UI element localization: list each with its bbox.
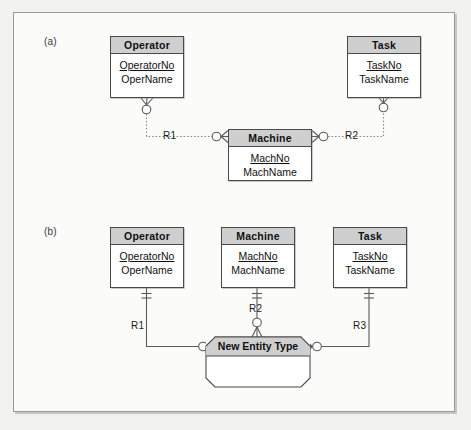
entity-machine-b-attributes: MachNo MachName bbox=[222, 245, 294, 277]
attribute: MachName bbox=[222, 263, 294, 277]
relationship-label-r3-b: R3 bbox=[353, 320, 366, 331]
new-entity-type-title[interactable]: New Entity Type bbox=[206, 337, 310, 356]
attribute-pk: TaskNo bbox=[334, 249, 406, 263]
entity-operator-b-title: Operator bbox=[111, 228, 183, 245]
entity-operator-b[interactable]: Operator OperatorNo OperName bbox=[110, 227, 184, 288]
attribute: TaskName bbox=[334, 263, 406, 277]
operator-r1-cardinality-a bbox=[141, 98, 153, 114]
attribute: TaskName bbox=[348, 72, 420, 86]
entity-task-a-title: Task bbox=[348, 37, 420, 54]
entity-operator-a-title: Operator bbox=[111, 37, 183, 54]
relationship-label-r1-b: R1 bbox=[131, 320, 144, 331]
machine-r2-cardinality-a bbox=[312, 131, 328, 143]
attribute-pk: TaskNo bbox=[348, 58, 420, 72]
entity-task-b[interactable]: Task TaskNo TaskName bbox=[333, 227, 407, 288]
part-a-label: (a) bbox=[44, 36, 57, 47]
r1-connector-b bbox=[147, 306, 200, 347]
machine-r1-cardinality-a bbox=[212, 131, 228, 143]
r1-connector-a bbox=[147, 114, 217, 137]
attribute: MachName bbox=[229, 165, 311, 179]
relationship-label-r1-a: R1 bbox=[163, 130, 176, 141]
entity-machine-a-attributes: MachNo MachName bbox=[229, 147, 311, 179]
task-r3-cardinality-b bbox=[364, 288, 374, 306]
entity-operator-b-attributes: OperatorNo OperName bbox=[111, 245, 183, 277]
attribute-pk: OperatorNo bbox=[111, 58, 183, 72]
entity-task-a[interactable]: Task TaskNo TaskName bbox=[347, 36, 421, 98]
entity-task-b-title: Task bbox=[334, 228, 406, 245]
attribute: OperName bbox=[111, 72, 183, 86]
task-r2-cardinality-a bbox=[378, 97, 389, 112]
relationship-label-r2-a: R2 bbox=[345, 130, 358, 141]
entity-machine-b[interactable]: Machine MachNo MachName bbox=[221, 227, 295, 288]
entity-task-b-attributes: TaskNo TaskName bbox=[334, 245, 406, 277]
attribute-pk: MachNo bbox=[222, 249, 294, 263]
entity-operator-a[interactable]: Operator OperatorNo OperName bbox=[110, 36, 184, 98]
entity-machine-a-title: Machine bbox=[229, 130, 311, 147]
er-diagram-figure: .solid { stroke:#5a5a5a; stroke-width:1.… bbox=[0, 0, 471, 430]
attribute-pk: MachNo bbox=[229, 151, 311, 165]
part-b-label: (b) bbox=[44, 226, 57, 237]
attribute-pk: OperatorNo bbox=[111, 249, 183, 263]
operator-r1-cardinality-b bbox=[142, 288, 152, 306]
entity-machine-b-title: Machine bbox=[222, 228, 294, 245]
newentity-r2-cardinality-b bbox=[252, 318, 263, 338]
entity-machine-a[interactable]: Machine MachNo MachName bbox=[228, 129, 312, 181]
attribute: OperName bbox=[111, 263, 183, 277]
entity-task-a-attributes: TaskNo TaskName bbox=[348, 54, 420, 86]
entity-operator-a-attributes: OperatorNo OperName bbox=[111, 54, 183, 86]
relationship-label-r2-b: R2 bbox=[249, 303, 262, 314]
